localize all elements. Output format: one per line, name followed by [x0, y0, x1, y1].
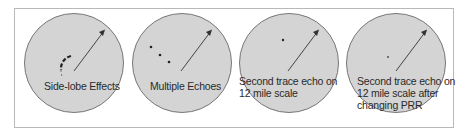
panel-side-lobe: Side-lobe Effects [23, 12, 125, 114]
echo-dot [159, 54, 162, 57]
radar-scope [131, 12, 233, 114]
radar-scope [23, 12, 125, 114]
echo-dot [168, 61, 171, 64]
echo-dot [282, 39, 284, 41]
panel-second-trace-prr: Second trace echo on 12 mile scale after… [345, 12, 447, 114]
panel-label: Second trace echo on 12 mile scale after… [357, 75, 455, 111]
panel-multiple-echoes: Multiple Echoes [131, 12, 233, 114]
panel-label: Multiple Echoes [150, 80, 221, 92]
echo-dot [387, 56, 389, 58]
panel-label: Second trace echo on 12 mile scale [239, 75, 337, 99]
panel-label: Side-lobe Effects [44, 80, 120, 92]
echo-dot [150, 46, 153, 49]
panel-second-trace: Second trace echo on 12 mile scale [238, 12, 340, 114]
